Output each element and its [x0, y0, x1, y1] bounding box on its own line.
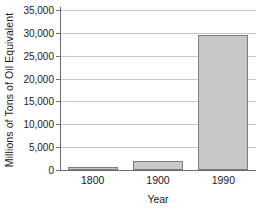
- y-axis-tick-labels: 05,00010,00015,00020,00025,00030,00035,0…: [16, 0, 58, 180]
- x-axis-tick-labels: 180019001990: [60, 174, 256, 190]
- y-tick-label: 30,000: [23, 27, 54, 38]
- y-tick-mark: [56, 147, 60, 148]
- y-tick-mark: [56, 79, 60, 80]
- y-tick-mark: [56, 56, 60, 57]
- y-tick-mark: [56, 10, 60, 11]
- y-tick-label: 10,000: [23, 119, 54, 130]
- y-tick-mark: [56, 33, 60, 34]
- y-tick-label: 25,000: [23, 50, 54, 61]
- plot-area: [60, 11, 256, 171]
- bars-group: [60, 11, 256, 171]
- bar: [68, 167, 118, 170]
- x-axis-title: Year: [60, 193, 256, 205]
- bar-chart: Millions of Tons of Oil Equivalent 05,00…: [0, 0, 269, 212]
- y-tick-mark: [56, 101, 60, 102]
- y-tick-label: 20,000: [23, 73, 54, 84]
- bar: [198, 35, 248, 170]
- x-tick-label: 1900: [146, 174, 169, 186]
- bar: [133, 161, 183, 170]
- x-tick-label: 1800: [81, 174, 104, 186]
- y-tick-label: 35,000: [23, 5, 54, 16]
- y-tick-label: 5,000: [29, 142, 54, 153]
- y-axis-title-label: Millions of Tons of Oil Equivalent: [3, 13, 15, 167]
- x-tick-label: 1990: [212, 174, 235, 186]
- y-tick-label: 0: [48, 165, 54, 176]
- y-tick-mark: [56, 124, 60, 125]
- y-tick-mark: [56, 170, 60, 171]
- y-tick-label: 15,000: [23, 96, 54, 107]
